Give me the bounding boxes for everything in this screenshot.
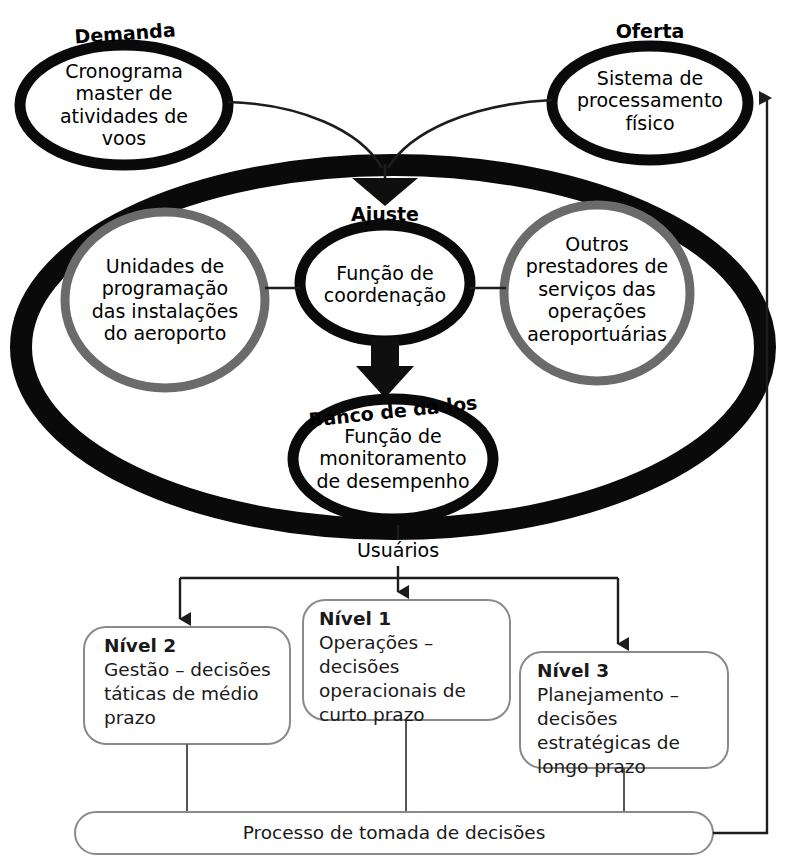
units-node-label: Unidades de programação das instalações … xyxy=(66,255,264,345)
nivel-3-title: Nível 3 xyxy=(537,659,723,683)
nivel-1-title: Nível 1 xyxy=(319,607,505,631)
nivel-2-text: Nível 2 Gestão – decisões táticas de méd… xyxy=(104,634,276,730)
caption-ajuste: Ajuste xyxy=(330,203,440,225)
caption-oferta: Oferta xyxy=(595,20,705,42)
coordination-node-label: Função de coordenação xyxy=(300,262,470,307)
nivel-1-body: Operações – decisões operacionais de cur… xyxy=(319,632,466,725)
supply-node-label: Sistema de processamento físico xyxy=(562,67,738,134)
diagram-root: Demanda Oferta Ajuste Banco de dados Usu… xyxy=(0,0,787,868)
providers-node-label: Outros prestadores de serviços das opera… xyxy=(500,233,694,345)
caption-usuarios: Usuários xyxy=(338,539,458,561)
decision-process-label: Processo de tomada de decisões xyxy=(75,822,713,843)
nivel-3-text: Nível 3 Planejamento – decisões estratég… xyxy=(537,659,723,779)
nivel-2-title: Nível 2 xyxy=(104,634,276,658)
nivel-1-text: Nível 1 Operações – decisões operacionai… xyxy=(319,607,505,727)
nivel-3-body: Planejamento – decisões estratégicas de … xyxy=(537,684,680,777)
demand-node-label: Cronograma master de atividades de voos xyxy=(44,60,204,150)
monitoring-node-label: Função de monitoramento de desempenho xyxy=(291,425,495,492)
nivel-2-body: Gestão – decisões táticas de médio prazo xyxy=(104,659,271,728)
